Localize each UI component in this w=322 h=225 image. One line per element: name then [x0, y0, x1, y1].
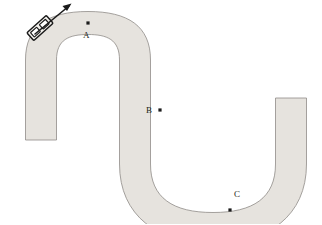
- point-dot-a: [86, 21, 89, 24]
- point-dot-b: [158, 108, 161, 111]
- point-label-a: A: [83, 31, 90, 40]
- roller-coaster-figure: A B C: [0, 0, 322, 224]
- track-band-shape: [26, 12, 307, 225]
- point-markers: [86, 21, 231, 211]
- roller-coaster-track: [26, 12, 307, 225]
- point-label-c: C: [234, 190, 240, 199]
- track-diagram-canvas: [0, 0, 322, 224]
- point-label-b: B: [146, 106, 152, 115]
- point-dot-c: [228, 208, 231, 211]
